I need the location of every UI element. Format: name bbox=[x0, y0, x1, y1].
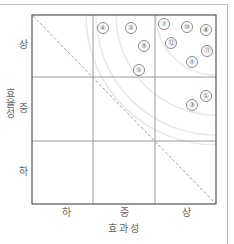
x-tick-mid: 중 bbox=[120, 208, 129, 218]
iso-arcs bbox=[86, 15, 216, 145]
y-tick-mid: 중 bbox=[19, 104, 28, 114]
data-point-marker: ⑧ bbox=[200, 24, 212, 36]
data-point-marker: ⑩ bbox=[181, 21, 193, 33]
data-point-marker: ⑨ bbox=[138, 40, 150, 52]
matrix-plot bbox=[0, 0, 234, 244]
data-point-marker: ⑫ bbox=[165, 37, 177, 49]
data-point-marker: ② bbox=[125, 22, 137, 34]
data-point-marker: ③ bbox=[186, 99, 198, 111]
data-point-marker: ⑥ bbox=[97, 22, 109, 34]
x-tick-high: 상 bbox=[182, 208, 191, 218]
data-point-marker: ① bbox=[200, 90, 212, 102]
x-axis-title: 효과성 bbox=[108, 224, 141, 234]
x-tick-low: 하 bbox=[62, 208, 71, 218]
data-point-marker: ⑤ bbox=[133, 64, 145, 76]
y-tick-high: 상 bbox=[19, 40, 28, 50]
data-point-marker: ⑦ bbox=[158, 18, 170, 30]
y-axis-title: 효 율 성 bbox=[5, 89, 15, 119]
y-axis-title-char: 성 bbox=[5, 109, 15, 119]
data-point-marker: ④ bbox=[186, 56, 198, 68]
data-point-marker: ⑪ bbox=[201, 45, 213, 57]
y-tick-low: 하 bbox=[19, 167, 28, 177]
